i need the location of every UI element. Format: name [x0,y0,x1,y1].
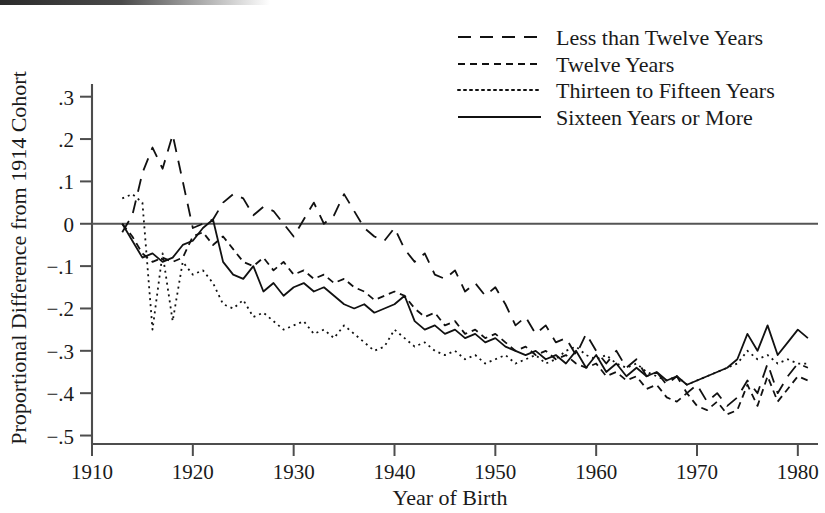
legend-label: Less than Twelve Years [556,25,763,50]
y-axis-title: Proportional Difference from 1914 Cohort [6,71,31,445]
x-tick-label: 1910 [71,460,113,484]
chart-figure: Proportional Difference from 1914 Cohort… [0,0,825,513]
line-chart: Proportional Difference from 1914 Cohort… [0,0,825,513]
y-tick-label: .1 [58,170,74,194]
legend-label: Thirteen to Fifteen Years [556,78,775,103]
y-tick-label: −.1 [46,255,74,279]
legend-label: Twelve Years [556,52,674,77]
x-tick-label: 1980 [777,460,819,484]
x-tick-label: 1950 [474,460,516,484]
y-tick-label: −.2 [46,297,74,321]
y-tick-label: .2 [58,128,74,152]
y-tick-label: −.3 [46,340,74,364]
x-axis-ticks: 19101920193019401950196019701980 [71,444,819,484]
series-lines [122,135,808,415]
x-tick-label: 1970 [676,460,718,484]
chart-legend: Less than Twelve YearsTwelve YearsThirte… [458,25,775,130]
y-tick-label: 0 [64,213,75,237]
series-line-short-dash [122,224,808,415]
y-tick-label: −.4 [46,382,74,406]
y-axis-ticks: .3.2.10−.1−.2−.3−.4−.5 [46,86,92,449]
x-tick-label: 1920 [172,460,214,484]
x-tick-label: 1930 [273,460,315,484]
x-tick-label: 1960 [575,460,617,484]
legend-label: Sixteen Years or More [556,105,753,130]
series-line-long-dash [122,135,808,406]
y-tick-label: .3 [58,86,74,110]
x-tick-label: 1940 [374,460,416,484]
x-axis-title: Year of Birth [392,485,507,510]
y-tick-label: −.5 [46,425,74,449]
